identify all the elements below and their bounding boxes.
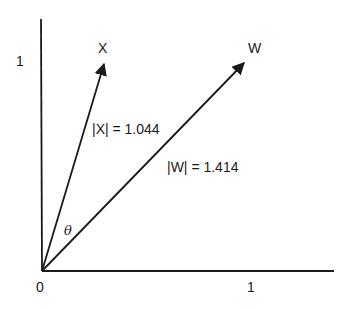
- origin-label: 0: [36, 279, 44, 295]
- y-tick-label-1: 1: [16, 53, 24, 69]
- x-tick-label-1: 1: [247, 279, 255, 295]
- vector-diagram: 1 0 1 X W |X| = 1.044 |W| = 1.414 θ: [0, 0, 351, 309]
- vector-x-label: X: [98, 40, 108, 56]
- y-axis: [41, 19, 42, 271]
- angle-theta-label: θ: [64, 223, 72, 238]
- vector-x-magnitude: |X| = 1.044: [92, 121, 160, 137]
- vector-w-magnitude: |W| = 1.414: [167, 159, 239, 175]
- vector-w-label: W: [248, 40, 262, 56]
